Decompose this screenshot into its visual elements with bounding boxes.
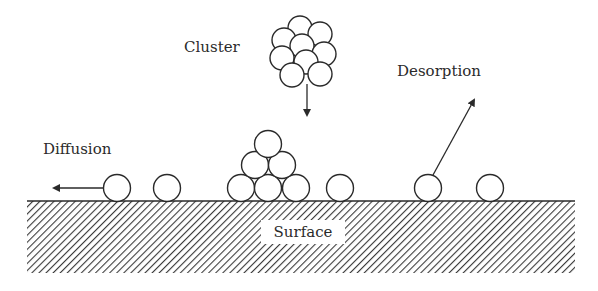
- atom-circle: [327, 175, 354, 202]
- atoms-layer: [104, 16, 504, 202]
- cluster-label: Cluster: [184, 40, 240, 55]
- atom-circle: [280, 63, 304, 87]
- island-pyramid: [228, 131, 310, 202]
- atom-circle: [104, 175, 131, 202]
- atom-circle: [228, 175, 255, 202]
- atom-circle: [255, 131, 282, 158]
- atom-circle: [415, 175, 442, 202]
- atom-circle: [154, 175, 181, 202]
- desorbing-atom: [415, 175, 442, 202]
- atom-circle: [308, 62, 332, 86]
- surface-label: Surface: [261, 220, 345, 244]
- diffusing-atom: [104, 175, 131, 202]
- desorption-arrow-icon: [433, 100, 474, 175]
- desorption-label: Desorption: [397, 64, 481, 79]
- diffusion-label: Diffusion: [43, 142, 111, 157]
- adsorbed-atoms: [154, 175, 504, 202]
- surface-processes-diagram: Cluster Desorption Diffusion Surface: [0, 0, 598, 291]
- surface-label-text: Surface: [274, 225, 333, 240]
- incoming-cluster: [270, 16, 336, 87]
- atom-circle: [477, 175, 504, 202]
- atom-circle: [283, 175, 310, 202]
